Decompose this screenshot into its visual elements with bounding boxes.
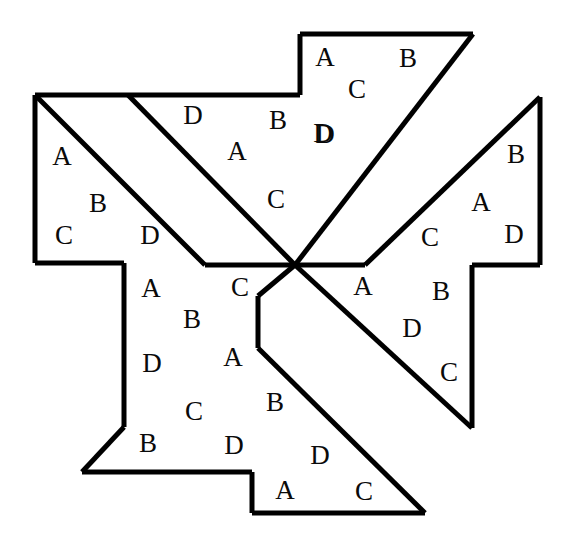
piece-label-b: B	[507, 139, 525, 169]
piece-label-b: B	[432, 276, 450, 306]
piece-label-c: C	[185, 396, 203, 426]
piece-label-c: C	[267, 184, 285, 214]
piece-label-c: C	[55, 220, 73, 250]
piece-label-d: D	[313, 118, 333, 148]
piece-label-d: D	[142, 348, 162, 378]
piece-label-c: C	[355, 476, 373, 506]
piece-label-b: B	[139, 428, 157, 458]
piece-label-d: D	[504, 219, 524, 249]
piece-label-a: A	[275, 475, 295, 505]
piece-label-a: A	[52, 141, 72, 171]
piece-label-c: C	[440, 357, 458, 387]
piece-label-c: C	[348, 74, 366, 104]
piece-label-b: B	[399, 43, 417, 73]
figure-canvas: ABCDABCDDBADCBADCABDCCABADCBBDDAC	[0, 0, 568, 542]
piece-label-a: A	[141, 273, 161, 303]
piece-label-a: A	[471, 187, 491, 217]
piece-label-d: D	[310, 440, 330, 470]
piece-label-d: D	[183, 100, 203, 130]
piece-label-a: A	[353, 271, 373, 301]
piece-label-c: C	[421, 222, 439, 252]
piece-label-b: B	[269, 105, 287, 135]
piece-label-a: A	[227, 136, 247, 166]
piece-label-b: B	[266, 387, 284, 417]
piece-label-c: C	[231, 272, 249, 302]
piece-label-b: B	[89, 188, 107, 218]
piece-label-d: D	[140, 220, 160, 250]
piece-label-d: D	[402, 313, 422, 343]
pinwheel-figure: ABCDABCDDBADCBADCABDCCABADCBBDDAC	[0, 0, 568, 542]
piece-label-a: A	[315, 42, 335, 72]
piece-label-b: B	[183, 304, 201, 334]
piece-label-a: A	[223, 342, 243, 372]
piece-label-d: D	[224, 430, 244, 460]
